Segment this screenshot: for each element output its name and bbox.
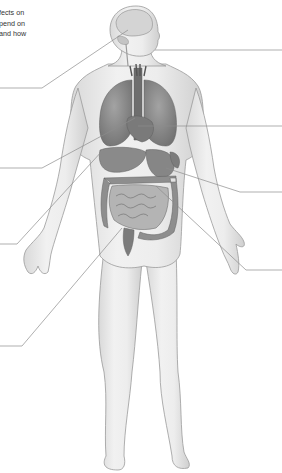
small-intestine	[109, 185, 168, 230]
left-arm	[24, 88, 88, 274]
brain	[116, 10, 153, 37]
right-arm	[186, 88, 244, 274]
body-illustration	[0, 0, 282, 473]
anatomy-diagram: fects on pend on and how	[0, 0, 282, 473]
left-leg	[99, 250, 142, 470]
right-leg	[146, 250, 189, 469]
